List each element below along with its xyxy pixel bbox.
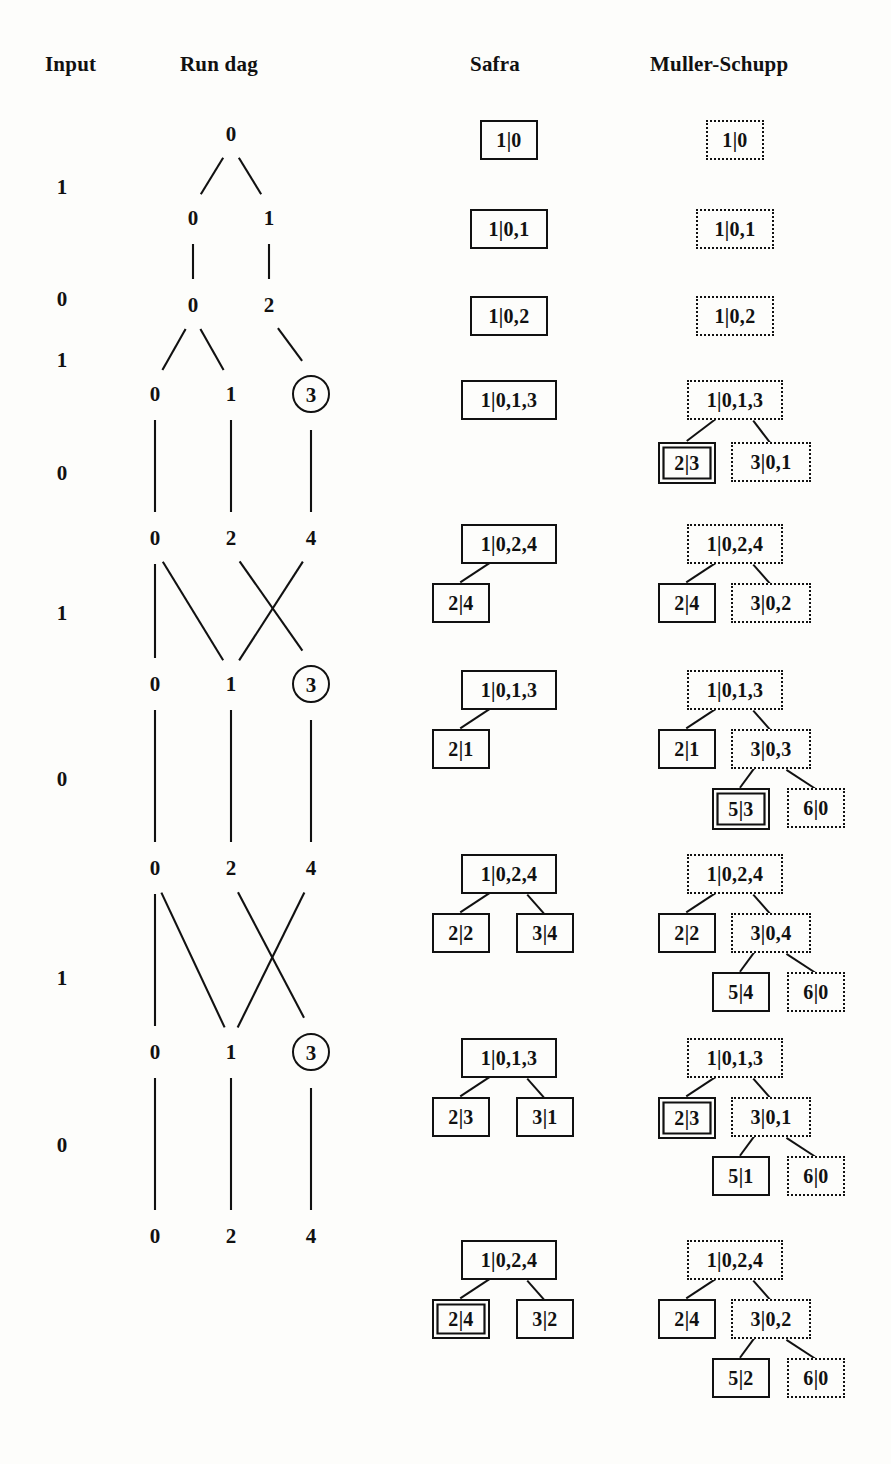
muller-schupp-tree-node: 2|1: [658, 729, 716, 769]
run-dag-node: 4: [298, 1225, 324, 1247]
muller-schupp-tree-node: 1|0,2,4: [687, 1240, 783, 1280]
safra-tree-node: 3|1: [516, 1097, 574, 1137]
run-dag-edge: [200, 329, 223, 370]
muller-schupp-tree-node: 1|0,1,3: [687, 670, 783, 710]
safra-tree-node-highlighted: 2|4: [432, 1299, 490, 1339]
run-dag-node: 0: [142, 383, 168, 405]
run-dag-edge: [240, 561, 303, 650]
safra-tree-node: 2|1: [432, 729, 490, 769]
muller-schupp-tree-node-highlighted: 2|3: [658, 1097, 716, 1139]
run-dag-node: 1: [218, 1041, 244, 1063]
safra-tree-node: 2|2: [432, 913, 490, 953]
muller-schupp-tree-node: 5|2: [712, 1358, 770, 1398]
muller-schupp-tree-node: 6|0: [787, 972, 845, 1012]
run-dag-node: 0: [180, 207, 206, 229]
run-dag-node: 2: [256, 294, 282, 316]
safra-tree-node: 1|0,1,3: [461, 380, 557, 420]
muller-schupp-tree-node: 3|0,2: [731, 583, 811, 623]
muller-schupp-tree-node: 2|4: [658, 583, 716, 623]
column-header-muller-schupp: Muller-Schupp: [650, 52, 788, 77]
run-dag-node: 0: [180, 294, 206, 316]
muller-schupp-tree-node: 3|0,1: [731, 1097, 811, 1137]
safra-tree-node: 1|0,1,3: [461, 670, 557, 710]
figure-canvas: InputRun dagSafraMuller-Schupp 10101010 …: [0, 0, 891, 1464]
run-dag-edge: [239, 158, 261, 194]
run-dag-node: 4: [298, 857, 324, 879]
run-dag-node: 0: [142, 527, 168, 549]
muller-schupp-tree-node-highlighted: 5|3: [712, 788, 770, 830]
safra-tree-node: 2|3: [432, 1097, 490, 1137]
run-dag-node: 0: [142, 673, 168, 695]
run-dag-node: 4: [298, 527, 324, 549]
muller-schupp-tree-node: 3|0,1: [731, 442, 811, 482]
column-header-safra: Safra: [470, 52, 520, 77]
safra-tree-node: 1|0,2,4: [461, 1240, 557, 1280]
input-letter: 0: [50, 287, 74, 312]
run-dag-node: 2: [218, 527, 244, 549]
muller-schupp-tree-node: 3|0,4: [731, 913, 811, 953]
run-dag-node: 1: [218, 673, 244, 695]
run-dag-node-accepting: 3: [292, 1033, 330, 1071]
safra-tree-node: 1|0,1,3: [461, 1038, 557, 1078]
run-dag-edge: [278, 328, 302, 361]
input-letter: 0: [50, 1133, 74, 1158]
muller-schupp-tree-node: 2|2: [658, 913, 716, 953]
input-letter: 1: [50, 348, 74, 373]
muller-schupp-tree-node: 1|0,2,4: [687, 854, 783, 894]
muller-schupp-tree-node: 1|0,1,3: [687, 380, 783, 420]
input-letter: 0: [50, 767, 74, 792]
safra-tree-node: 1|0,2,4: [461, 524, 557, 564]
run-dag-node: 2: [218, 1225, 244, 1247]
safra-tree-node: 3|4: [516, 913, 574, 953]
muller-schupp-tree-node: 6|0: [787, 1358, 845, 1398]
run-dag-node: 0: [142, 857, 168, 879]
muller-schupp-tree-node: 3|0,3: [731, 729, 811, 769]
muller-schupp-tree-node: 1|0,1,3: [687, 1038, 783, 1078]
run-dag-node-accepting: 3: [292, 665, 330, 703]
run-dag-node: 0: [142, 1225, 168, 1247]
run-dag-node: 0: [218, 123, 244, 145]
muller-schupp-tree-node: 5|4: [712, 972, 770, 1012]
muller-schupp-tree-node: 1|0: [706, 120, 764, 160]
run-dag-node-accepting: 3: [292, 375, 330, 413]
muller-schupp-tree-node: 3|0,2: [731, 1299, 811, 1339]
safra-tree-node: 1|0,2: [470, 296, 548, 336]
safra-tree-node: 2|4: [432, 583, 490, 623]
column-header-run-dag: Run dag: [180, 52, 258, 77]
safra-tree-node: 1|0,1: [470, 209, 548, 249]
run-dag-node: 0: [142, 1041, 168, 1063]
muller-schupp-tree-node-highlighted: 2|3: [658, 442, 716, 484]
run-dag-edge: [239, 562, 303, 661]
input-letter: 1: [50, 601, 74, 626]
run-dag-edge: [201, 158, 223, 194]
run-dag-node: 1: [218, 383, 244, 405]
run-dag-edge: [162, 329, 185, 370]
muller-schupp-tree-node: 6|0: [787, 1156, 845, 1196]
muller-schupp-tree-node: 5|1: [712, 1156, 770, 1196]
run-dag-edge: [161, 893, 224, 1028]
column-header-input: Input: [45, 52, 96, 77]
run-dag-node: 1: [256, 207, 282, 229]
input-letter: 0: [50, 461, 74, 486]
safra-tree-node: 1|0,2,4: [461, 854, 557, 894]
muller-schupp-tree-node: 1|0,2,4: [687, 524, 783, 564]
safra-tree-node: 1|0: [480, 120, 538, 160]
input-letter: 1: [50, 966, 74, 991]
run-dag-node: 2: [218, 857, 244, 879]
safra-tree-node: 3|2: [516, 1299, 574, 1339]
run-dag-edge: [163, 562, 223, 660]
muller-schupp-tree-node: 1|0,2: [696, 296, 774, 336]
muller-schupp-tree-node: 1|0,1: [696, 209, 774, 249]
muller-schupp-tree-node: 2|4: [658, 1299, 716, 1339]
input-letter: 1: [50, 175, 74, 200]
muller-schupp-tree-node: 6|0: [787, 788, 845, 828]
